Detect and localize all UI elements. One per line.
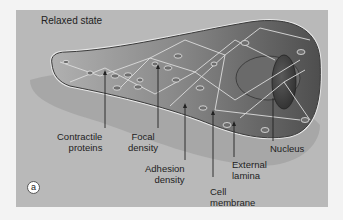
smooth-muscle-cell-illustration xyxy=(0,0,343,220)
label-external-lamina: External lamina xyxy=(232,159,267,181)
figure-title: Relaxed state xyxy=(41,15,102,26)
label-adhesion-density: Adhesion density xyxy=(145,163,185,185)
label-focal-density: Focal density xyxy=(128,131,158,153)
label-nucleus: Nucleus xyxy=(270,143,304,154)
panel-letter-badge: a xyxy=(27,181,40,194)
label-cell-membrane: Cell membrane xyxy=(210,186,255,208)
label-contractile-proteins: Contractile proteins xyxy=(57,131,102,153)
